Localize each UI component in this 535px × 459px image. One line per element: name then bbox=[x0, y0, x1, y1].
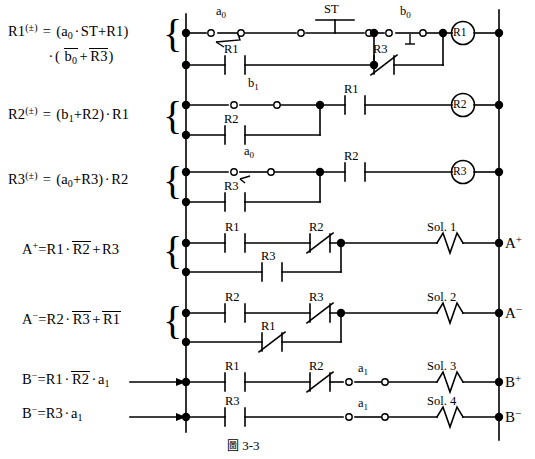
junction-left-rung1-b bbox=[182, 61, 190, 69]
label-r2-contact-rung5: R2 bbox=[225, 290, 240, 305]
coil-label-r1: R1 bbox=[453, 26, 466, 38]
contact-r2-no-rung5 bbox=[225, 304, 245, 322]
label-a1-rung7: a1 bbox=[358, 396, 368, 412]
label-r3-contact-rung7: R3 bbox=[225, 394, 240, 409]
junction-right-rung4 bbox=[495, 239, 503, 247]
junction-right-rung7 bbox=[495, 413, 503, 421]
label-b1: b1 bbox=[248, 76, 259, 92]
label-sol3: Sol. 3 bbox=[427, 359, 456, 374]
label-r2-contact-rung2: R2 bbox=[224, 112, 239, 127]
figure-caption-number: 3-3 bbox=[242, 438, 259, 453]
contact-r3-no-rung7 bbox=[225, 408, 245, 426]
junction-right-rung3 bbox=[495, 168, 503, 176]
junction-left-rung5-b bbox=[182, 338, 190, 346]
junction-rung3-branch bbox=[316, 168, 324, 176]
label-r3-contact-rung3: R3 bbox=[224, 179, 239, 194]
a1-terminal-left-1 bbox=[346, 379, 352, 385]
solenoid-sol1 bbox=[437, 233, 463, 253]
label-r3-contact-rung5: R3 bbox=[309, 290, 324, 305]
st-terminal-left bbox=[298, 30, 304, 36]
a1-terminal-right-2 bbox=[382, 414, 388, 420]
a0-terminal-left-2 bbox=[231, 169, 237, 175]
junction-rung1-mid bbox=[370, 29, 378, 37]
junction-rung4-branch bbox=[337, 239, 345, 247]
junction-left-rung5-a bbox=[182, 309, 190, 317]
label-r1-contact-rung1: R1 bbox=[224, 42, 239, 57]
contact-r3-no-rung4 bbox=[262, 263, 282, 281]
a1-terminal-left-2 bbox=[346, 414, 352, 420]
junction-right-rung1 bbox=[495, 29, 503, 37]
label-sol2: Sol. 2 bbox=[427, 290, 456, 305]
junction-left-rung2-b bbox=[182, 131, 190, 139]
contact-r1-no-rung4 bbox=[225, 234, 245, 252]
contact-r3-nc-rung5 bbox=[307, 303, 333, 323]
label-a0-rung1: a0 bbox=[216, 4, 226, 20]
terminal-a-plus: A+ bbox=[505, 233, 522, 252]
a0-actuator-arm-2 bbox=[240, 176, 250, 179]
junction-left-rung1-a bbox=[182, 29, 190, 37]
junction-rung1-right bbox=[439, 29, 447, 37]
a0-terminal-right-2 bbox=[268, 169, 274, 175]
a0-actuator-arm-1 bbox=[216, 34, 240, 42]
label-sol4: Sol. 4 bbox=[427, 394, 456, 409]
coil-label-r2: R2 bbox=[453, 98, 466, 110]
b0-terminal-left bbox=[386, 30, 392, 36]
terminal-b-minus: B− bbox=[505, 407, 521, 426]
junction-left-rung6 bbox=[182, 378, 190, 386]
junction-right-rung6 bbox=[495, 378, 503, 386]
junction-left-rung4-b bbox=[182, 268, 190, 276]
label-r2-contact-rung3: R2 bbox=[344, 149, 359, 164]
solenoid-sol3 bbox=[437, 372, 463, 392]
contact-r2-nc-rung6 bbox=[307, 372, 333, 392]
junction-rung2-branch bbox=[316, 101, 324, 109]
junction-left-rung3-b bbox=[182, 198, 190, 206]
label-r1-contact-rung6: R1 bbox=[225, 359, 240, 374]
junction-left-rung4-a bbox=[182, 239, 190, 247]
a1-terminal-right-1 bbox=[382, 379, 388, 385]
junction-left-rung3-a bbox=[182, 168, 190, 176]
figure-caption: 圖 3-3 bbox=[227, 436, 260, 454]
label-r2-contact-rung6: R2 bbox=[309, 359, 324, 374]
label-a1-rung6: a1 bbox=[358, 361, 368, 377]
junction-rung1-mid-b bbox=[370, 61, 378, 69]
junction-right-rung5 bbox=[495, 309, 503, 317]
contact-r2-no-rung3 bbox=[345, 163, 365, 181]
junction-left-rung7 bbox=[182, 413, 190, 421]
b1-terminal-left bbox=[231, 102, 237, 108]
contact-r1-no-rung6 bbox=[225, 373, 245, 391]
label-r1-contact-rung4: R1 bbox=[225, 220, 240, 235]
ladder-diagram-figure: R1(±) = (a0·ST+R1) ·( b0+R3) R2(±) = (b1… bbox=[0, 0, 535, 459]
contact-r3-no-rung3 bbox=[225, 193, 245, 211]
label-r1-contact-rung5: R1 bbox=[261, 319, 276, 334]
contact-r1-no-rung1 bbox=[225, 56, 245, 74]
a0-terminal-left-1 bbox=[208, 30, 214, 36]
contact-r1-no-rung2 bbox=[345, 96, 365, 114]
label-a0-rung3: a0 bbox=[244, 144, 254, 160]
label-r1-contact-rung2: R1 bbox=[344, 82, 359, 97]
label-r3-contact-rung4: R3 bbox=[261, 249, 276, 264]
solenoid-sol4 bbox=[437, 407, 463, 427]
label-r3-contact-rung1: R3 bbox=[373, 42, 388, 57]
contact-r2-nc-rung4 bbox=[307, 233, 333, 253]
figure-caption-cjk: 圖 bbox=[227, 439, 239, 453]
b0-terminal-right bbox=[420, 30, 426, 36]
solenoid-sol2 bbox=[437, 303, 463, 323]
label-r2-contact-rung4: R2 bbox=[309, 220, 324, 235]
label-st: ST bbox=[324, 2, 339, 17]
contact-r2-no-rung2 bbox=[225, 126, 245, 144]
terminal-b-plus: B+ bbox=[505, 372, 521, 391]
label-b0: b0 bbox=[400, 4, 411, 20]
b1-terminal-right bbox=[274, 102, 280, 108]
label-sol1: Sol. 1 bbox=[427, 220, 456, 235]
junction-rung5-branch bbox=[337, 309, 345, 317]
contact-r1-nc-rung5 bbox=[259, 332, 285, 352]
coil-label-r3: R3 bbox=[453, 165, 466, 177]
terminal-a-minus: A− bbox=[505, 303, 522, 322]
junction-right-rung2 bbox=[495, 101, 503, 109]
junction-left-rung2-a bbox=[182, 101, 190, 109]
